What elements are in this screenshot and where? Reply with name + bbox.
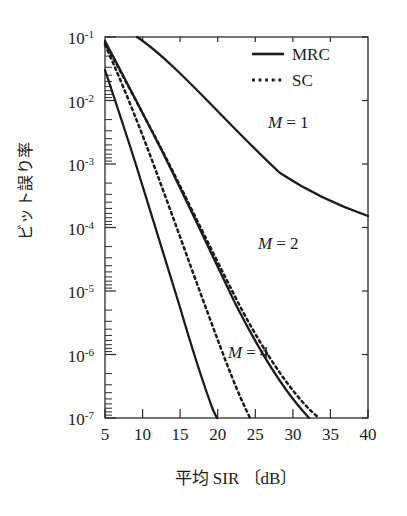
- x-ticklabel-1: 10: [134, 425, 151, 444]
- legend: MRC SC: [252, 45, 330, 90]
- curve-mrc-m4: [105, 70, 217, 418]
- x-ticklabel-4: 25: [247, 425, 264, 444]
- curve-mrc-m1: [137, 37, 368, 216]
- x-axis-title: 平均 SIR 〔dB〕: [175, 469, 298, 488]
- y-axis-ticklabels: 10-1 10-2 10-3 10-4 10-5 10-6 10-7: [68, 28, 95, 429]
- y-ticklabel-4: 10-5: [68, 282, 95, 302]
- y-ticklabel-2: 10-3: [68, 155, 95, 175]
- x-ticklabel-6: 35: [322, 425, 339, 444]
- series-annotations: M= 1 M= 2 M= 4: [227, 113, 309, 362]
- annotation-m-equals-1: M= 1: [267, 113, 309, 132]
- chart-svg: 10-1 10-2 10-3 10-4 10-5 10-6 10-7 5: [0, 0, 407, 516]
- x-ticklabel-2: 15: [172, 425, 189, 444]
- legend-label-sc: SC: [292, 71, 313, 90]
- x-ticklabel-5: 30: [284, 425, 301, 444]
- y-ticklabel-0: 10-1: [68, 28, 94, 48]
- y-ticklabel-1: 10-2: [68, 92, 94, 112]
- curve-sc-m2: [105, 43, 319, 418]
- annotation-m-equals-2: M= 2: [257, 234, 299, 253]
- y-ticklabel-3: 10-4: [68, 219, 95, 239]
- x-ticklabel-3: 20: [209, 425, 226, 444]
- annotation-m-equals-4: M= 4: [227, 343, 269, 362]
- bit-error-rate-chart: ビット誤り率: [0, 0, 407, 516]
- x-ticklabel-0: 5: [101, 425, 110, 444]
- legend-label-mrc: MRC: [292, 45, 330, 64]
- x-axis-ticklabels: 5 10 15 20 25 30 35 40: [101, 425, 377, 444]
- y-ticklabel-6: 10-7: [68, 409, 95, 429]
- x-ticklabel-7: 40: [360, 425, 377, 444]
- y-ticklabel-5: 10-6: [68, 346, 95, 366]
- curve-mrc-m2: [105, 41, 309, 418]
- y-axis-title: ビット誤り率: [12, 141, 36, 240]
- curve-sc-m4: [105, 45, 250, 418]
